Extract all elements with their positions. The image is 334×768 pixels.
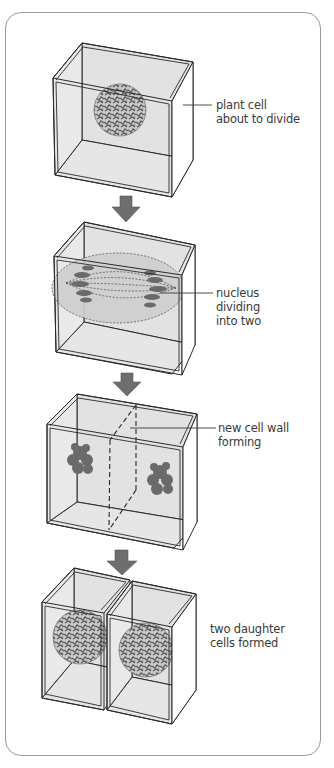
down-arrow-icon (113, 373, 141, 396)
stage-1-label: plant cell about to divide (216, 98, 300, 126)
spindle (52, 253, 184, 323)
daughter-cell-right (107, 581, 196, 724)
down-arrow-icon (112, 196, 140, 222)
stage-2-label: nucleus dividing into two (216, 286, 261, 328)
stage-3-label: new cell wall forming (218, 421, 289, 449)
nucleus (119, 623, 173, 677)
nucleus (53, 610, 107, 664)
stage-4-cells (42, 568, 196, 724)
nucleus (94, 84, 146, 136)
stage-1-cell (53, 43, 212, 197)
stage-3-cell (47, 394, 216, 550)
down-arrow-icon (107, 550, 137, 575)
stage-2-cell (52, 222, 213, 375)
stage-4-label: two daughter cells formed (210, 622, 285, 650)
